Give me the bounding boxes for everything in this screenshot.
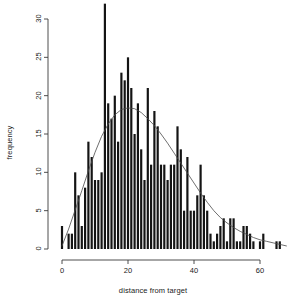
x-axis-title: distance from target — [0, 286, 306, 295]
y-tick-label: 10 — [34, 162, 43, 182]
histogram-bar — [130, 88, 132, 249]
histogram-bar — [200, 165, 202, 249]
histogram-bar — [114, 96, 116, 249]
x-tick-label: 60 — [248, 266, 272, 275]
histogram-bar — [223, 218, 225, 249]
histogram-bar — [91, 157, 93, 249]
histogram-bar — [252, 241, 254, 249]
histogram-bar — [137, 103, 139, 249]
histogram-plot: distance from target frequency 0204060 0… — [0, 0, 306, 307]
x-tick-label: 20 — [116, 266, 140, 275]
histogram-bar — [68, 234, 70, 249]
plot-canvas — [0, 0, 306, 307]
histogram-bar — [127, 57, 129, 249]
bar-group — [61, 4, 281, 249]
histogram-bar — [143, 180, 145, 249]
histogram-bar — [213, 241, 215, 249]
histogram-bar — [101, 172, 103, 249]
y-tick-label: 0 — [34, 239, 43, 259]
histogram-bar — [147, 88, 149, 249]
histogram-bar — [120, 73, 122, 249]
histogram-bar — [239, 241, 241, 249]
histogram-bar — [226, 241, 228, 249]
histogram-bar — [170, 165, 172, 249]
y-tick-label: 20 — [34, 85, 43, 105]
histogram-bar — [176, 126, 178, 249]
histogram-bar — [216, 234, 218, 249]
y-axis — [44, 19, 48, 249]
histogram-bar — [275, 241, 277, 249]
histogram-bar — [104, 4, 106, 249]
y-tick-label: 30 — [34, 9, 43, 29]
histogram-bar — [186, 157, 188, 249]
y-tick-label: 15 — [34, 124, 43, 144]
y-tick-label: 5 — [34, 200, 43, 220]
histogram-bar — [196, 195, 198, 249]
histogram-bar — [94, 180, 96, 249]
y-tick-label: 25 — [34, 47, 43, 67]
histogram-bar — [233, 218, 235, 249]
histogram-bar — [134, 134, 136, 249]
x-tick-label: 0 — [50, 266, 74, 275]
histogram-bar — [262, 234, 264, 249]
histogram-bar — [71, 234, 73, 249]
histogram-bar — [84, 188, 86, 249]
histogram-bar — [87, 142, 89, 249]
histogram-bar — [110, 119, 112, 249]
histogram-bar — [203, 195, 205, 249]
histogram-bar — [97, 180, 99, 249]
histogram-bar — [150, 165, 152, 249]
y-axis-title: frequency — [5, 103, 14, 183]
x-axis — [62, 260, 260, 264]
histogram-bar — [173, 165, 175, 249]
histogram-bar — [183, 211, 185, 249]
histogram-bar — [236, 241, 238, 249]
histogram-bar — [81, 226, 83, 249]
histogram-bar — [246, 226, 248, 249]
histogram-bar — [206, 211, 208, 249]
histogram-bar — [219, 226, 221, 249]
histogram-bar — [279, 241, 281, 249]
histogram-bar — [157, 126, 159, 249]
histogram-bar — [140, 149, 142, 249]
histogram-bar — [259, 241, 261, 249]
histogram-bar — [242, 226, 244, 249]
histogram-bar — [167, 180, 169, 249]
histogram-bar — [163, 165, 165, 249]
histogram-bar — [190, 211, 192, 249]
histogram-bar — [209, 234, 211, 249]
histogram-bar — [117, 142, 119, 249]
histogram-bar — [193, 211, 195, 249]
histogram-bar — [153, 111, 155, 249]
histogram-bar — [124, 80, 126, 249]
histogram-bar — [229, 218, 231, 249]
histogram-bar — [160, 165, 162, 249]
x-tick-label: 40 — [182, 266, 206, 275]
